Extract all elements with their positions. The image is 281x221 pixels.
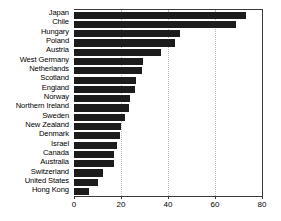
bar <box>74 49 161 56</box>
category-label: Northern Ireland <box>0 102 72 111</box>
category-label: New Zealand <box>0 121 72 130</box>
bar <box>74 21 236 28</box>
x-tick-label: 60 <box>211 200 220 209</box>
bar <box>74 67 142 74</box>
category-label: Netherlands <box>0 65 72 74</box>
bar-row <box>74 132 262 141</box>
x-tick-label: 20 <box>117 200 126 209</box>
tick-mark <box>262 196 263 199</box>
bar-row <box>74 39 262 48</box>
category-label: Hungary <box>0 28 72 37</box>
bar-row <box>74 104 262 113</box>
category-label: Switzerland <box>0 168 72 177</box>
bar-row <box>74 95 262 104</box>
bar <box>74 95 130 102</box>
bar <box>74 114 125 121</box>
bar-row <box>74 122 262 131</box>
bar <box>74 104 129 111</box>
bar-row <box>74 160 262 169</box>
category-label: Hong Kong <box>0 186 72 195</box>
category-label: Israel <box>0 140 72 149</box>
category-label: Norway <box>0 93 72 102</box>
bar-row <box>74 30 262 39</box>
category-label: Denmark <box>0 130 72 139</box>
bar-row <box>74 48 262 57</box>
bar <box>74 169 103 176</box>
bar <box>74 188 89 195</box>
bar-row <box>74 178 262 187</box>
bar-series <box>74 10 262 196</box>
bar-row <box>74 150 262 159</box>
bar-row <box>74 11 262 20</box>
x-axis-tick-labels: 020406080 <box>74 200 262 214</box>
bar <box>74 30 180 37</box>
category-label: Australia <box>0 158 72 167</box>
bar-row <box>74 76 262 85</box>
bar-row <box>74 67 262 76</box>
bar-row <box>74 141 262 150</box>
category-label: United States <box>0 177 72 186</box>
bar <box>74 160 114 167</box>
tick-mark <box>121 196 122 199</box>
bar <box>74 123 121 130</box>
category-label: England <box>0 84 72 93</box>
tick-mark <box>215 196 216 199</box>
category-label: Austria <box>0 46 72 55</box>
bar-row <box>74 187 262 196</box>
bar-row <box>74 85 262 94</box>
bar-row <box>74 113 262 122</box>
bar <box>74 132 120 139</box>
category-label: Canada <box>0 149 72 158</box>
bar-chart: Japan Chile Hungary Poland Austria West … <box>0 0 281 221</box>
tick-mark <box>74 196 75 199</box>
bar <box>74 86 135 93</box>
x-tick-label: 0 <box>72 200 76 209</box>
category-label: Poland <box>0 37 72 46</box>
category-axis-labels: Japan Chile Hungary Poland Austria West … <box>0 9 72 195</box>
bar-row <box>74 20 262 29</box>
bar-row <box>74 57 262 66</box>
x-tick-label: 40 <box>164 200 173 209</box>
category-label: Scotland <box>0 74 72 83</box>
bar <box>74 39 175 46</box>
category-label: Japan <box>0 9 72 18</box>
bar <box>74 77 136 84</box>
plot-area <box>74 9 263 197</box>
x-tick-label: 80 <box>258 200 267 209</box>
bar <box>74 151 114 158</box>
category-label: West Germany <box>0 56 72 65</box>
tick-mark <box>168 196 169 199</box>
category-label: Chile <box>0 18 72 27</box>
bar <box>74 12 246 19</box>
bar-row <box>74 169 262 178</box>
bar <box>74 142 117 149</box>
bar <box>74 58 143 65</box>
category-label: Sweden <box>0 112 72 121</box>
bar <box>74 179 98 186</box>
